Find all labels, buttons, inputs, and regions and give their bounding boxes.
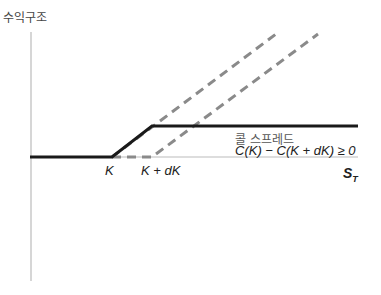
call-spread-formula: C(K) − C(K + dK) ≥ 0 <box>235 143 356 158</box>
strike-k-label: K <box>105 163 114 178</box>
x-axis-label-sub: T <box>352 174 358 184</box>
x-axis-label: ST <box>343 165 358 184</box>
strike-k-dk-label: K + dK <box>141 163 180 178</box>
chart-title: 수익구조 <box>3 8 47 25</box>
x-axis-label-main: S <box>343 165 352 181</box>
